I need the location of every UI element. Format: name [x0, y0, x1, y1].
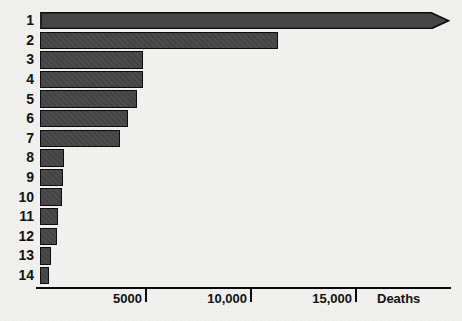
bar-2 — [40, 32, 278, 49]
x-tick-label-5000: 5000 — [59, 292, 142, 305]
bar-4 — [40, 71, 143, 88]
bar-13 — [40, 247, 51, 264]
bar-shape-2 — [40, 32, 278, 49]
bar-shape-14 — [40, 267, 49, 284]
x-tick-label-10,000: 10,000 — [164, 292, 247, 305]
bar-6 — [40, 110, 128, 127]
bar-12 — [40, 228, 57, 245]
bar-shape-10 — [40, 188, 62, 205]
bar-shape-4 — [40, 71, 143, 88]
bar-11 — [40, 208, 58, 225]
bar-shape-12 — [40, 228, 57, 245]
x-tick-15,000 — [355, 289, 357, 302]
bar-shape-8 — [40, 149, 64, 166]
bar-shape-7 — [40, 130, 120, 147]
bar-shape-1 — [40, 12, 450, 29]
x-axis-title: Deaths — [377, 292, 420, 305]
x-tick-10,000 — [250, 289, 252, 302]
x-tick-label-15,000: 15,000 — [269, 292, 352, 305]
bar-8 — [40, 149, 64, 166]
bar-shape-5 — [40, 90, 137, 107]
bar-shape-3 — [40, 51, 143, 68]
bar-shape-11 — [40, 208, 58, 225]
chart-container: 1234567891011121314 500010,00015,000 Dea… — [0, 0, 462, 321]
bar-14 — [40, 267, 49, 284]
x-tick-5000 — [145, 289, 147, 302]
x-axis-line — [36, 287, 451, 289]
bar-shape-9 — [40, 169, 63, 186]
bar-arrow-icon — [40, 12, 450, 29]
bar-shape-13 — [40, 247, 51, 264]
bar-5 — [40, 90, 137, 107]
plot-area: 1234567891011121314 500010,00015,000 Dea… — [0, 0, 462, 321]
bar-7 — [40, 130, 120, 147]
bar-10 — [40, 188, 62, 205]
bar-1 — [40, 12, 450, 29]
bar-3 — [40, 51, 143, 68]
bar-shape-6 — [40, 110, 128, 127]
bar-9 — [40, 169, 63, 186]
bars-layer — [0, 0, 462, 321]
